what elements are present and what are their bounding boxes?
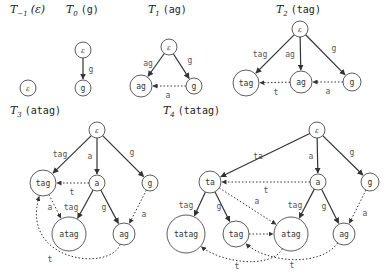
node-T4-eps: ε	[309, 122, 325, 138]
edge-label: g	[130, 148, 135, 157]
edge-T4-eps-to-g	[323, 136, 363, 175]
edge-label: t	[264, 186, 269, 195]
panel-title-T-1: T−1(ε)	[10, 3, 45, 18]
edge-label: ag	[143, 59, 153, 68]
edge-label: a	[255, 197, 260, 206]
node-T4-tag: tag	[223, 221, 249, 247]
node-T3-g: g	[142, 175, 158, 191]
svg-text:ag: ag	[119, 230, 129, 239]
labels-layer: gaggatagaggtatagagttaggaattaagttaggatagg…	[48, 44, 368, 271]
node-T3-tag: tag	[30, 170, 56, 196]
node-T3-atag: atag	[52, 217, 86, 251]
edge-label: g	[332, 44, 337, 53]
svg-text:tatag: tatag	[174, 230, 198, 239]
svg-text:g: g	[81, 84, 86, 93]
panel-title-T1: T1(ag)	[148, 3, 187, 18]
suffix-tree-diagram: εεgεaggεtagaggεtagagatagagεtaagtatagtaga…	[0, 0, 388, 272]
nodes-layer: εεgεaggεtagaggεtagagatagagεtaagtatagtaga…	[20, 21, 379, 253]
node-T3-eps: ε	[89, 122, 105, 138]
edge-T3-eps-to-g	[103, 136, 144, 177]
svg-text:ag: ag	[136, 82, 146, 91]
node-T3-a: a	[89, 175, 105, 191]
node-T2-tag: tag	[233, 70, 259, 96]
svg-text:a: a	[95, 179, 100, 188]
svg-text:g: g	[148, 179, 153, 188]
node-T4-a: a	[310, 174, 326, 190]
edge-label: g	[350, 148, 355, 157]
node-T1-eps: ε	[161, 39, 177, 55]
svg-text:atag: atag	[59, 230, 78, 239]
edge-label: ta	[253, 152, 263, 161]
node-T0-eps: ε	[75, 42, 91, 58]
edge-T2-eps-to-g	[306, 35, 345, 75]
svg-text:a: a	[316, 178, 321, 187]
edge-label: tag	[179, 201, 194, 210]
svg-text:ag: ag	[339, 230, 349, 239]
edge-label: tag	[64, 203, 79, 212]
edge-T4-ta-to-tatag	[194, 192, 205, 216]
svg-text:ε: ε	[167, 44, 171, 52]
edge-label: g	[188, 56, 193, 65]
node-T-1-eps: ε	[20, 80, 36, 96]
edge-label: ag	[285, 50, 295, 59]
svg-text:ε: ε	[298, 26, 302, 34]
titles-layer: T−1(ε)T0(g)T1(ag)T2(tag)T3(atag)T4(tatag…	[10, 3, 321, 119]
svg-text:ε: ε	[315, 127, 319, 135]
node-T3-ag: ag	[113, 223, 135, 245]
edge-label: a	[88, 152, 93, 161]
edge-label: g	[89, 65, 94, 74]
edge-label: a	[142, 210, 147, 219]
edge-label: t	[274, 88, 279, 97]
edge-label: g	[322, 202, 327, 211]
svg-text:tag: tag	[36, 179, 51, 188]
edge-T4-g-to-ag	[349, 190, 366, 223]
edge-label: a	[363, 209, 368, 218]
node-T4-ta: ta	[199, 171, 221, 193]
edge-label: g	[217, 202, 222, 211]
edge-T3-a-to-atag	[78, 190, 93, 218]
edge-label: t	[290, 261, 295, 270]
edge-label: a	[48, 203, 53, 212]
svg-text:tag: tag	[239, 79, 254, 88]
edge-T2-eps-to-ag	[300, 37, 301, 70]
edge-T4-atag-to-tatag	[201, 247, 282, 262]
node-T1-g: g	[186, 78, 202, 94]
svg-text:g: g	[350, 78, 355, 87]
svg-text:tag: tag	[229, 230, 244, 239]
svg-text:ag: ag	[296, 78, 306, 87]
panel-title-T2: T2(tag)	[276, 3, 321, 18]
edge-label: g	[102, 203, 107, 212]
svg-text:g: g	[192, 82, 197, 91]
edge-T2-ag-to-tag	[260, 82, 290, 83]
svg-text:ε: ε	[81, 47, 85, 55]
panel-title-T4: T4(tatag)	[163, 104, 220, 119]
edge-label: a	[166, 91, 171, 100]
node-T4-ag: ag	[333, 223, 355, 245]
node-T4-atag: atag	[274, 217, 308, 251]
node-T0-g: g	[75, 80, 91, 96]
node-T1-ag: ag	[130, 75, 152, 97]
edge-label: tag	[253, 50, 268, 59]
node-T2-g: g	[343, 73, 361, 91]
node-T2-eps: ε	[292, 21, 308, 37]
svg-text:g: g	[368, 178, 373, 187]
panel-title-T0: T0(g)	[66, 3, 99, 18]
edge-label: a	[309, 152, 314, 161]
edge-T4-eps-to-a	[317, 138, 318, 173]
node-T4-g: g	[361, 173, 379, 191]
edge-label: tag	[288, 201, 303, 210]
svg-text:ε: ε	[95, 127, 99, 135]
node-T2-ag: ag	[290, 71, 312, 93]
edge-label: a	[326, 87, 331, 96]
svg-text:atag: atag	[281, 230, 300, 239]
panel-title-T3: T3(atag)	[10, 104, 61, 119]
node-T4-tatag: tatag	[167, 215, 205, 253]
edge-label: t	[70, 188, 75, 197]
svg-text:ε: ε	[26, 85, 30, 93]
edge-label: t	[48, 255, 53, 264]
svg-text:ta: ta	[205, 178, 215, 187]
edge-label: tag	[53, 150, 68, 159]
edge-T4-eps-to-ta	[221, 133, 310, 176]
edge-label: t	[235, 262, 240, 271]
